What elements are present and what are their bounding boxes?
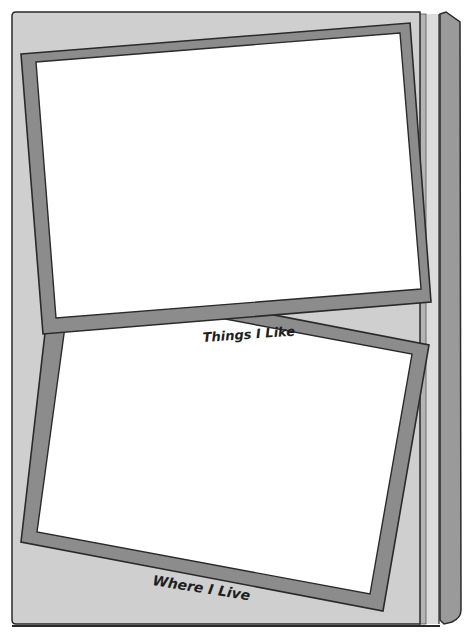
photo-slot-top bbox=[36, 33, 421, 318]
photo-frame-top[interactable] bbox=[21, 23, 431, 334]
book-spine bbox=[440, 12, 461, 624]
page-edge-light bbox=[426, 14, 439, 624]
scrapbook-page: Things I Like Where I Live bbox=[0, 0, 471, 632]
